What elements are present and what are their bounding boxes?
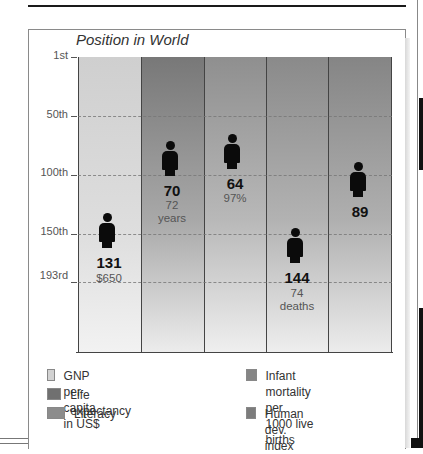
legend-label: Literacy <box>74 406 116 422</box>
frame-shadow <box>405 38 410 448</box>
legend-item-literacy: Literacy <box>47 406 116 422</box>
legend-swatch <box>47 369 55 381</box>
metric-value: $650 <box>78 272 140 284</box>
y-tick-label: 50th <box>26 108 68 120</box>
y-tick <box>71 282 77 283</box>
metric-value: 97% <box>204 192 266 204</box>
top-rule <box>28 5 406 7</box>
legend-swatch <box>47 407 65 419</box>
person-icon <box>162 141 178 176</box>
person-icon <box>350 162 366 197</box>
metric-unit: deaths <box>266 300 328 312</box>
rank-value: 70 <box>141 182 203 199</box>
rank-value: 131 <box>78 254 140 271</box>
page-edge-bar <box>411 438 423 448</box>
legend-item-human-dev-index: Human dev. index <box>246 406 312 454</box>
y-tick <box>71 234 77 235</box>
x-axis <box>76 352 393 353</box>
column-literacy <box>204 57 266 352</box>
metric-unit: years <box>141 212 203 224</box>
y-tick-label: 1st <box>26 49 68 61</box>
page-edge-bar <box>419 98 423 170</box>
metric-value: 74 <box>266 287 328 299</box>
page-edge-bar <box>419 308 423 448</box>
chart-title: Position in World <box>76 31 189 48</box>
rank-value: 89 <box>329 203 391 220</box>
legend-swatch <box>246 369 257 381</box>
legend-label: Human dev. index <box>265 406 312 454</box>
y-tick <box>71 116 77 117</box>
y-tick <box>71 175 77 176</box>
rank-value: 64 <box>204 175 266 192</box>
divider <box>0 443 28 444</box>
person-icon <box>224 134 240 169</box>
gridline-150th <box>78 234 392 235</box>
y-tick-label: 150th <box>26 225 68 237</box>
metric-value: 72 <box>141 199 203 211</box>
person-icon <box>99 213 115 248</box>
legend-swatch <box>47 388 61 400</box>
gridline-50th <box>78 116 392 117</box>
y-tick-label: 193rd <box>26 269 68 281</box>
person-icon <box>287 228 303 263</box>
rank-value: 144 <box>266 269 328 286</box>
legend-swatch <box>246 407 256 419</box>
y-tick <box>71 57 77 58</box>
divider <box>0 438 28 439</box>
column-gnp <box>78 57 141 352</box>
y-tick-label: 100th <box>26 166 68 178</box>
page-divider <box>417 0 418 440</box>
